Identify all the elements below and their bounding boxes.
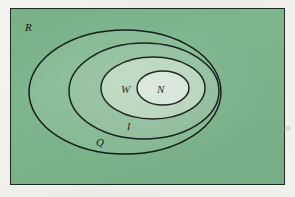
diagram-frame: R Q I W N: [10, 8, 285, 185]
figure-page: R Q I W N: [0, 0, 295, 197]
set-label-W: W: [121, 83, 131, 95]
set-label-Q: Q: [96, 136, 104, 148]
set-label-I: I: [126, 121, 131, 132]
set-label-N: N: [156, 83, 165, 95]
set-label-R: R: [24, 21, 32, 33]
euler-diagram: R Q I W N: [11, 9, 283, 183]
